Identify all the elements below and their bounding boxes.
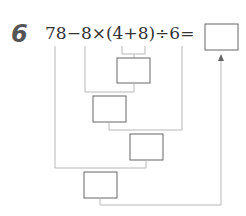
calculation-diagram [0,0,246,216]
step-2-box[interactable] [93,96,126,122]
step-4-box[interactable] [84,172,117,198]
answer-box[interactable] [205,24,238,50]
bracket-4-plus-8 [122,46,145,54]
step-3-box[interactable] [130,134,163,160]
arrow-up-icon [218,54,224,61]
step-1-box[interactable] [117,58,150,83]
